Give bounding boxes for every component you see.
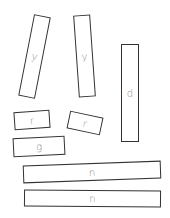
tile-label: n xyxy=(89,166,96,177)
tile-label: y xyxy=(30,50,38,62)
tile-y2[interactable]: y xyxy=(73,15,96,98)
tile-r1[interactable]: r xyxy=(13,110,50,130)
tile-label: d xyxy=(127,88,133,99)
tile-d[interactable]: d xyxy=(121,44,139,142)
tile-label: n xyxy=(89,192,95,203)
tile-y1[interactable]: y xyxy=(18,14,51,99)
tile-label: y xyxy=(81,50,88,61)
tile-n1[interactable]: n xyxy=(23,161,162,184)
tile-label: r xyxy=(82,117,88,129)
tile-r2[interactable]: r xyxy=(67,111,104,136)
tile-label: g xyxy=(36,140,43,151)
tile-g[interactable]: g xyxy=(13,135,66,157)
tile-n2[interactable]: n xyxy=(23,189,160,207)
tile-label: r xyxy=(30,114,35,125)
